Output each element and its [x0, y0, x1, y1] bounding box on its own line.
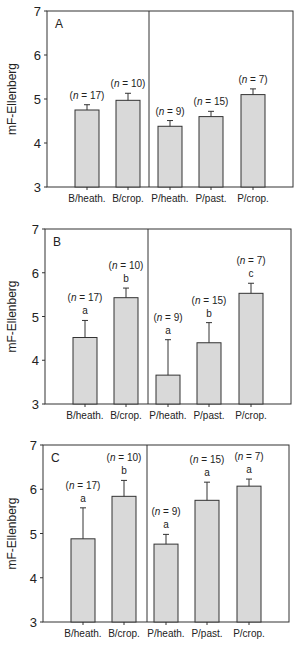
significance-letter: a [204, 467, 210, 478]
sample-size-label: (n = 10) [111, 78, 146, 89]
sample-size-label: (n = 7) [236, 255, 265, 266]
y-axis-label: mF-Ellenberg [5, 63, 19, 135]
x-tick-label: B/heath. [66, 410, 103, 421]
bar [156, 375, 180, 404]
y-tick-label: 5 [30, 527, 37, 542]
sample-size-label: (n = 17) [68, 292, 103, 303]
sample-size-label: (n = 15) [194, 96, 229, 107]
significance-letter: a [80, 493, 86, 504]
y-tick-label: 6 [34, 48, 41, 63]
sample-size-label: (n = 9) [153, 312, 182, 323]
sample-size-label: (n = 9) [151, 506, 180, 517]
y-axis-label: mF-Ellenberg [5, 280, 19, 352]
sample-size-label: (n = 17) [66, 480, 101, 491]
x-tick-label: B/heath. [68, 193, 105, 204]
y-tick-label: 3 [32, 397, 39, 412]
bar [237, 486, 261, 622]
bar [239, 293, 263, 404]
bar [112, 496, 136, 622]
panel-label: A [55, 17, 63, 31]
x-tick-label: P/crop. [235, 410, 267, 421]
sample-size-label: (n = 15) [190, 454, 225, 465]
significance-letter: b [121, 465, 127, 476]
y-tick-label: 7 [30, 438, 37, 453]
x-tick-label: P/crop. [233, 628, 265, 639]
sample-size-label: (n = 7) [234, 451, 263, 462]
panel-c: 34567mF-EllenbergCB/heath.a(n = 17)B/cro… [5, 438, 289, 639]
bar [75, 110, 99, 187]
y-tick-label: 6 [32, 266, 39, 281]
significance-letter: a [163, 519, 169, 530]
bar [199, 117, 223, 187]
y-tick-label: 7 [34, 4, 41, 19]
significance-letter: b [206, 308, 212, 319]
x-tick-label: P/crop. [237, 193, 269, 204]
bar [195, 500, 219, 622]
x-tick-label: P/past. [193, 410, 224, 421]
significance-letter: b [123, 273, 129, 284]
y-tick-label: 3 [34, 180, 41, 195]
sample-size-label: (n = 10) [109, 260, 144, 271]
sample-size-label: (n = 10) [107, 452, 142, 463]
significance-letter: a [165, 325, 171, 336]
significance-letter: c [249, 268, 254, 279]
x-tick-label: P/heath. [149, 410, 186, 421]
y-tick-label: 4 [34, 136, 41, 151]
panel-label: B [53, 235, 61, 249]
x-tick-label: P/past. [195, 193, 226, 204]
x-tick-label: B/crop. [108, 628, 140, 639]
bar [114, 298, 138, 404]
y-tick-label: 7 [32, 222, 39, 237]
x-tick-label: B/crop. [112, 193, 144, 204]
y-tick-label: 4 [32, 353, 39, 368]
y-tick-label: 4 [30, 571, 37, 586]
panel-label: C [51, 451, 60, 465]
bar [71, 539, 95, 622]
bar [197, 343, 221, 404]
bar [116, 100, 140, 187]
panel-a: 34567mF-EllenbergAB/heath.(n = 17)B/crop… [5, 4, 293, 204]
significance-letter: a [246, 464, 252, 475]
y-tick-label: 5 [32, 310, 39, 325]
bar [154, 544, 178, 622]
x-tick-label: B/crop. [110, 410, 142, 421]
x-tick-label: B/heath. [64, 628, 101, 639]
bar [158, 126, 182, 187]
sample-size-label: (n = 9) [155, 106, 184, 117]
sample-size-label: (n = 15) [192, 295, 227, 306]
bar [73, 338, 97, 405]
significance-letter: a [82, 305, 88, 316]
y-tick-label: 3 [30, 615, 37, 630]
y-tick-label: 6 [30, 482, 37, 497]
y-tick-label: 5 [34, 92, 41, 107]
y-axis-label: mF-Ellenberg [5, 497, 19, 569]
x-tick-label: P/heath. [147, 628, 184, 639]
x-tick-label: P/heath. [151, 193, 188, 204]
sample-size-label: (n = 17) [70, 90, 105, 101]
chart-figure: 34567mF-EllenbergAB/heath.(n = 17)B/crop… [0, 0, 302, 650]
panel-b: 34567mF-EllenbergBB/heath.a(n = 17)B/cro… [5, 222, 291, 421]
bar [241, 95, 265, 187]
x-tick-label: P/past. [191, 628, 222, 639]
sample-size-label: (n = 7) [238, 74, 267, 85]
